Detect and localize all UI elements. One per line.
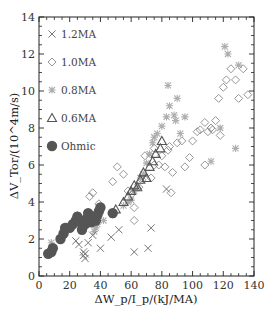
y-tick-label: 4 (28, 196, 35, 209)
legend: 1.2MA1.0MA0.8MA0.6MAOhmic (47, 28, 97, 152)
legend-item: 1.2MA (48, 28, 96, 40)
x-tick-label: 100 (182, 279, 203, 292)
y-tick-label: 8 (28, 122, 35, 135)
legend-label: Ohmic (61, 140, 96, 152)
y-tick-label: 2 (28, 233, 35, 246)
legend-label: 1.0MA (61, 56, 96, 68)
x-axis-label: ΔW_p/I_p/(kJ/MA) (94, 292, 197, 306)
legend-label: 1.2MA (61, 28, 96, 40)
y-axis-label: ΔV_Tor/(10^4m/s) (7, 93, 21, 200)
y-tick-label: 6 (28, 159, 35, 172)
x-tick-label: 60 (124, 279, 138, 292)
x-tick-label: 40 (93, 279, 107, 292)
x-tick-label: 120 (213, 279, 234, 292)
data-points (43, 43, 252, 262)
x-tick-label: 80 (155, 279, 169, 292)
scatter-chart: 02040608010012014002468101214 1.2MA1.0MA… (0, 0, 266, 314)
y-tick-label: 14 (21, 11, 35, 24)
legend-item: Ohmic (47, 140, 96, 152)
y-tick-label: 10 (21, 85, 35, 98)
legend-item: 0.8MA (48, 84, 96, 96)
legend-label: 0.6MA (61, 112, 96, 124)
x-tick-label: 0 (36, 279, 43, 292)
series-ohmic (43, 202, 118, 259)
x-tick-label: 140 (244, 279, 265, 292)
legend-label: 0.8MA (61, 84, 96, 96)
legend-item: 0.6MA (48, 112, 97, 124)
series-1-0ma (86, 65, 252, 225)
legend-item: 1.0MA (48, 56, 96, 68)
y-tick-label: 0 (28, 270, 35, 283)
y-tick-label: 12 (21, 48, 35, 61)
x-tick-label: 20 (63, 279, 77, 292)
